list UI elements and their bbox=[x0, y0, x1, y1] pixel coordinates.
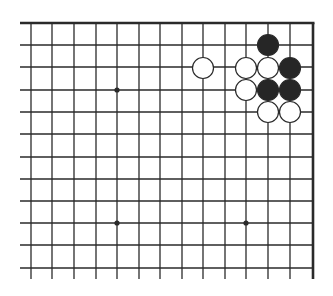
white-stone bbox=[258, 102, 279, 123]
black-stone bbox=[280, 80, 301, 101]
star-point bbox=[243, 220, 248, 225]
star-point bbox=[114, 220, 119, 225]
black-stone bbox=[258, 35, 279, 56]
black-stone bbox=[258, 80, 279, 101]
white-stone bbox=[258, 58, 279, 79]
white-stone bbox=[280, 102, 301, 123]
white-stone bbox=[236, 58, 257, 79]
black-stone bbox=[280, 58, 301, 79]
go-board bbox=[0, 0, 333, 296]
white-stone bbox=[193, 58, 214, 79]
white-stone bbox=[236, 80, 257, 101]
star-point bbox=[114, 87, 119, 92]
